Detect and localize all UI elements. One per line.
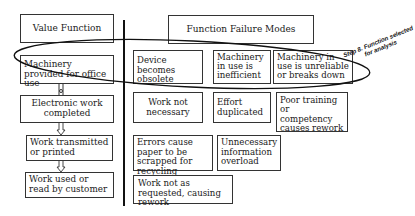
arrow-down-icon [57, 123, 65, 135]
failure-mode-item: Unnecessary information overload [217, 135, 281, 171]
failure-mode-label: Work not as requested, causing rework [138, 178, 221, 207]
failure-mode-item: Work not as requested, causing rework [133, 175, 233, 204]
failure-mode-item: Work not necessary [133, 92, 203, 123]
failure-mode-label: Errors cause paper to be scrapped for re… [137, 137, 193, 176]
value-step-1: Machinery provided for office use [20, 55, 114, 84]
failure-modes-header: Function Failure Modes [168, 15, 314, 44]
value-step-1-label: Machinery provided for office use [24, 59, 106, 88]
failure-mode-label: Machinery in use is unreliable or breaks… [277, 52, 349, 80]
failure-mode-label: Effort duplicated [217, 97, 263, 117]
failure-mode-label: Unnecessary information overload [221, 137, 277, 166]
failure-mode-label: Machinery in use is inefficient [217, 52, 264, 80]
value-step-3-label: Work transmitted or printed [30, 137, 108, 157]
failure-mode-item: Machinery in use is unreliable or breaks… [273, 50, 353, 84]
value-step-2-label: Electronic work completed [24, 99, 110, 118]
column-divider [123, 20, 125, 206]
arrow-down-icon [59, 84, 63, 95]
failure-mode-label: Device becomes obsolete [137, 55, 175, 84]
failure-mode-item: Device becomes obsolete [133, 50, 203, 84]
value-step-4: Work used or read by customer [25, 172, 114, 198]
failure-mode-label: Poor training or competency causes rewor… [280, 95, 343, 133]
value-function-header-label: Value Function [33, 24, 102, 34]
failure-mode-label: Work not necessary [137, 98, 199, 117]
failure-modes-header-label: Function Failure Modes [187, 25, 296, 35]
value-step-2: Electronic work completed [20, 95, 114, 123]
value-function-header: Value Function [20, 14, 114, 43]
failure-mode-item: Machinery in use is inefficient [213, 50, 271, 84]
failure-mode-item: Poor training or competency causes rewor… [276, 92, 348, 132]
step-annotation: Step 8. Function selected for analysis [342, 24, 415, 65]
failure-mode-item: Errors cause paper to be scrapped for re… [133, 135, 213, 171]
arrow-down-icon [57, 161, 65, 172]
failure-mode-item: Effort duplicated [213, 92, 271, 123]
value-step-3: Work transmitted or printed [26, 135, 113, 161]
value-step-4-label: Work used or read by customer [29, 174, 107, 194]
